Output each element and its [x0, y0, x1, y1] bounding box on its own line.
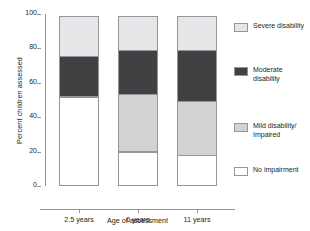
y-tick-label: 100: [25, 9, 37, 16]
y-axis-line: [45, 14, 46, 186]
bar-2[interactable]: [118, 16, 158, 186]
bar-3[interactable]: [177, 16, 217, 186]
bar-segment[interactable]: [118, 16, 158, 50]
legend-item[interactable]: Moderate disability: [234, 66, 310, 83]
legend-item[interactable]: Mild disability/ Impaired: [234, 122, 297, 139]
legend-label: Mild disability/ Impaired: [253, 122, 297, 139]
legend-item[interactable]: No impairment: [234, 166, 299, 176]
y-tick: 100: [41, 14, 45, 15]
y-tick-label: 60: [29, 78, 37, 85]
bar-segment[interactable]: [118, 152, 158, 186]
legend-label: No impairment: [253, 166, 299, 175]
y-axis-title: Percent children assessed: [15, 26, 24, 176]
y-tick-label: 0: [33, 181, 37, 188]
legend-swatch: [234, 67, 248, 76]
y-tick-mark: [37, 14, 41, 15]
x-tick-mark: [138, 209, 139, 213]
y-tick-label: 80: [29, 43, 37, 50]
bar-segment[interactable]: [177, 155, 217, 186]
legend-swatch: [234, 167, 248, 176]
bar-segment[interactable]: [177, 101, 217, 156]
bar-segment[interactable]: [177, 50, 217, 102]
plot-area: 020406080100 2.5 years6 years11 years: [45, 14, 230, 186]
y-tick: 80: [41, 48, 45, 49]
bar-segment[interactable]: [59, 16, 99, 57]
bar-segment[interactable]: [59, 97, 99, 186]
chart-legend: Severe disabilityModerate disabilityMild…: [234, 14, 310, 186]
y-tick-label: 20: [29, 147, 37, 154]
x-tick-mark: [197, 209, 198, 213]
y-tick: 20: [41, 152, 45, 153]
y-tick: 0: [41, 186, 45, 187]
bar-segment[interactable]: [59, 56, 99, 97]
legend-label: Moderate disability: [253, 66, 310, 83]
y-tick-mark: [37, 117, 41, 118]
legend-label: Severe disability: [253, 22, 304, 31]
bar-1[interactable]: [59, 16, 99, 186]
bar-segment[interactable]: [118, 50, 158, 95]
x-axis-title: Age of assessment: [45, 216, 230, 225]
x-tick-mark: [79, 209, 80, 213]
legend-swatch: [234, 123, 248, 132]
y-tick-mark: [37, 152, 41, 153]
y-tick-mark: [37, 186, 41, 187]
bar-segment[interactable]: [118, 94, 158, 152]
legend-swatch: [234, 23, 248, 32]
y-tick-mark: [37, 48, 41, 49]
legend-item[interactable]: Severe disability: [234, 22, 304, 32]
y-tick-label: 40: [29, 112, 37, 119]
y-tick: 60: [41, 83, 45, 84]
y-tick-mark: [37, 83, 41, 84]
chart-figure: Percent children assessed 020406080100 2…: [0, 0, 310, 231]
y-tick: 40: [41, 117, 45, 118]
bar-segment[interactable]: [177, 16, 217, 50]
